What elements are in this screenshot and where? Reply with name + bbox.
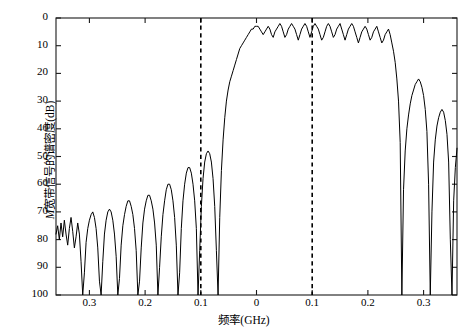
plot-canvas [0, 0, 470, 334]
chart-figure: M宽带信号的谱密度(dB) 频率(GHz) 0.30.20.100.10.20.… [0, 0, 470, 334]
spectrum-curve [56, 24, 457, 295]
band-edge-lines [201, 18, 312, 295]
